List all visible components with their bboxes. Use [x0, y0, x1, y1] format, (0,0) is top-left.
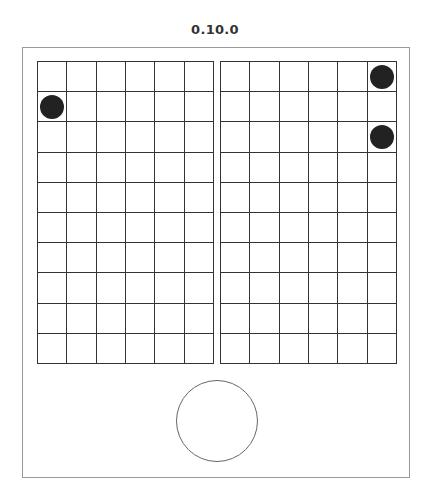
board-cell[interactable] — [368, 183, 397, 213]
board-cell[interactable] — [185, 334, 214, 364]
board-cell[interactable] — [97, 122, 126, 152]
board-cell[interactable] — [67, 304, 96, 334]
board-cell[interactable] — [309, 334, 338, 364]
board-cell[interactable] — [126, 92, 155, 122]
board-cell[interactable] — [185, 213, 214, 243]
board-cell[interactable] — [338, 213, 367, 243]
board-cell[interactable] — [185, 183, 214, 213]
board-cell[interactable] — [280, 122, 309, 152]
board-cell[interactable] — [250, 273, 279, 303]
board-cell[interactable] — [338, 273, 367, 303]
board-cell[interactable] — [38, 334, 67, 364]
board-cell[interactable] — [280, 213, 309, 243]
board-cell[interactable] — [280, 153, 309, 183]
board-cell[interactable] — [126, 122, 155, 152]
board-cell[interactable] — [250, 213, 279, 243]
board-cell[interactable] — [155, 243, 184, 273]
board-cell[interactable] — [221, 92, 250, 122]
board-cell[interactable] — [368, 122, 397, 152]
board-cell[interactable] — [280, 304, 309, 334]
board-cell[interactable] — [38, 153, 67, 183]
board-cell[interactable] — [185, 243, 214, 273]
board-cell[interactable] — [338, 62, 367, 92]
board-cell[interactable] — [38, 243, 67, 273]
board-cell[interactable] — [338, 243, 367, 273]
board-cell[interactable] — [309, 273, 338, 303]
board-cell[interactable] — [155, 92, 184, 122]
board-cell[interactable] — [221, 273, 250, 303]
board-cell[interactable] — [67, 62, 96, 92]
board-cell[interactable] — [67, 273, 96, 303]
circle-action-button[interactable] — [176, 380, 258, 462]
board-cell[interactable] — [280, 243, 309, 273]
board-cell[interactable] — [309, 122, 338, 152]
board-cell[interactable] — [280, 334, 309, 364]
board-cell[interactable] — [280, 92, 309, 122]
board-cell[interactable] — [97, 243, 126, 273]
board-cell[interactable] — [221, 213, 250, 243]
board-cell[interactable] — [368, 304, 397, 334]
board-cell[interactable] — [185, 92, 214, 122]
board-cell[interactable] — [185, 304, 214, 334]
board-cell[interactable] — [38, 213, 67, 243]
board-cell[interactable] — [338, 304, 367, 334]
board-cell[interactable] — [338, 183, 367, 213]
board-cell[interactable] — [338, 122, 367, 152]
board-cell[interactable] — [38, 304, 67, 334]
board-cell[interactable] — [38, 273, 67, 303]
board-cell[interactable] — [280, 273, 309, 303]
board-cell[interactable] — [97, 153, 126, 183]
board-cell[interactable] — [155, 334, 184, 364]
board-cell[interactable] — [338, 334, 367, 364]
board-cell[interactable] — [280, 183, 309, 213]
board-cell[interactable] — [38, 92, 67, 122]
board-cell[interactable] — [221, 334, 250, 364]
board-cell[interactable] — [97, 273, 126, 303]
board-cell[interactable] — [309, 92, 338, 122]
board-cell[interactable] — [221, 243, 250, 273]
board-cell[interactable] — [126, 334, 155, 364]
board-cell[interactable] — [67, 183, 96, 213]
right-board-grid[interactable] — [220, 61, 397, 364]
board-cell[interactable] — [155, 122, 184, 152]
board-cell[interactable] — [155, 273, 184, 303]
board-cell[interactable] — [155, 304, 184, 334]
left-board-grid[interactable] — [37, 61, 214, 364]
board-cell[interactable] — [309, 183, 338, 213]
board-cell[interactable] — [185, 153, 214, 183]
board-cell[interactable] — [368, 92, 397, 122]
board-cell[interactable] — [126, 273, 155, 303]
board-cell[interactable] — [280, 62, 309, 92]
board-cell[interactable] — [221, 62, 250, 92]
board-cell[interactable] — [97, 62, 126, 92]
board-cell[interactable] — [38, 122, 67, 152]
board-cell[interactable] — [221, 153, 250, 183]
board-cell[interactable] — [221, 304, 250, 334]
board-cell[interactable] — [368, 153, 397, 183]
board-cell[interactable] — [250, 92, 279, 122]
board-cell[interactable] — [67, 213, 96, 243]
board-cell[interactable] — [67, 92, 96, 122]
board-cell[interactable] — [185, 62, 214, 92]
board-cell[interactable] — [368, 273, 397, 303]
board-cell[interactable] — [368, 243, 397, 273]
board-cell[interactable] — [250, 243, 279, 273]
board-cell[interactable] — [221, 183, 250, 213]
board-cell[interactable] — [155, 213, 184, 243]
board-cell[interactable] — [126, 183, 155, 213]
board-cell[interactable] — [309, 243, 338, 273]
board-cell[interactable] — [67, 243, 96, 273]
board-cell[interactable] — [368, 213, 397, 243]
board-cell[interactable] — [338, 92, 367, 122]
board-cell[interactable] — [97, 304, 126, 334]
board-cell[interactable] — [250, 183, 279, 213]
board-cell[interactable] — [97, 183, 126, 213]
board-cell[interactable] — [250, 304, 279, 334]
board-cell[interactable] — [185, 122, 214, 152]
board-cell[interactable] — [126, 304, 155, 334]
board-cell[interactable] — [338, 153, 367, 183]
board-cell[interactable] — [368, 62, 397, 92]
board-cell[interactable] — [97, 334, 126, 364]
board-cell[interactable] — [97, 92, 126, 122]
board-cell[interactable] — [309, 304, 338, 334]
